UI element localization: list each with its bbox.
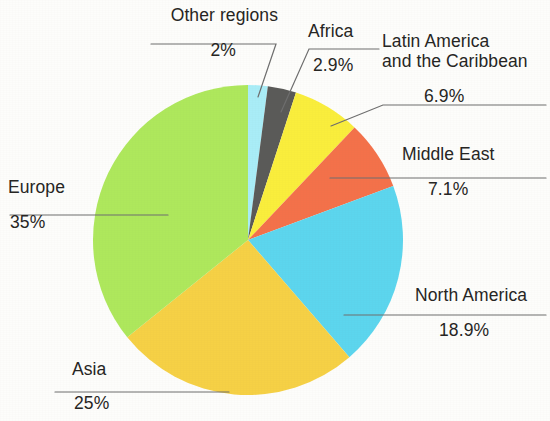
label-north-america-name: North America (415, 285, 527, 305)
label-latin-america: Latin America and the Caribbean 6.9% (382, 32, 550, 107)
label-europe-name: Europe (8, 177, 65, 197)
label-other-regions-value: 2% (148, 41, 236, 61)
label-latin-america-value: 6.9% (424, 87, 550, 107)
leader-line-latin-america (331, 105, 546, 126)
label-middle-east-name: Middle East (402, 144, 495, 164)
label-latin-america-name-line2: and the Caribbean (382, 51, 528, 71)
label-north-america: North America 18.9% (415, 286, 550, 340)
label-north-america-value: 18.9% (439, 321, 550, 341)
label-asia-name: Asia (72, 359, 106, 379)
label-europe: Europe 35% (8, 178, 118, 232)
label-africa-name: Africa (308, 21, 353, 41)
label-asia-value: 25% (74, 394, 182, 414)
label-middle-east-value: 7.1% (428, 180, 544, 200)
label-europe-value: 35% (10, 213, 118, 233)
label-other-regions: Other regions 2% (148, 6, 278, 60)
pie-chart: Other regions 2% Africa 2.9% Latin Ameri… (0, 0, 550, 421)
label-asia: Asia 25% (72, 360, 182, 413)
pie-slices (93, 85, 403, 395)
label-latin-america-name-line1: Latin America (382, 31, 489, 51)
label-other-regions-name: Other regions (171, 5, 278, 25)
label-middle-east: Middle East 7.1% (402, 145, 544, 199)
